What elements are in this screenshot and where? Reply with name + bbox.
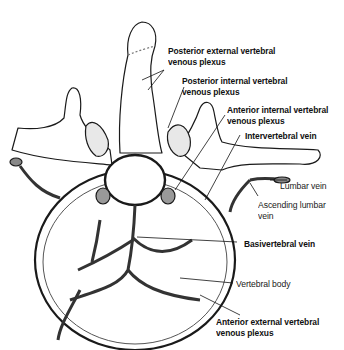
label-intervertebral-vein: Intervertebral vein xyxy=(245,130,317,141)
label-vertebral-body: Vertebral body xyxy=(236,278,290,289)
label-ascending-lumbar-vein: Ascending lumbar vein xyxy=(258,199,326,221)
label-lumbar-vein: Lumbar vein xyxy=(280,180,327,191)
label-basivertebral-vein: Basivertebral vein xyxy=(244,238,315,249)
label-posterior-internal-vertebral-venous-plexus: Posterior internal vertebral venous plex… xyxy=(182,75,287,97)
label-anterior-external-vertebral-venous-plexus: Anterior external vertebral venous plexu… xyxy=(216,316,319,338)
spinous-process xyxy=(119,22,162,153)
label-posterior-external-vertebral-venous-plexus: Posterior external vertebral venous plex… xyxy=(168,45,275,67)
vertebral-foramen xyxy=(105,155,165,205)
label-anterior-internal-vertebral-venous-plexus: Anterior internal vertebral venous plexu… xyxy=(227,104,328,126)
